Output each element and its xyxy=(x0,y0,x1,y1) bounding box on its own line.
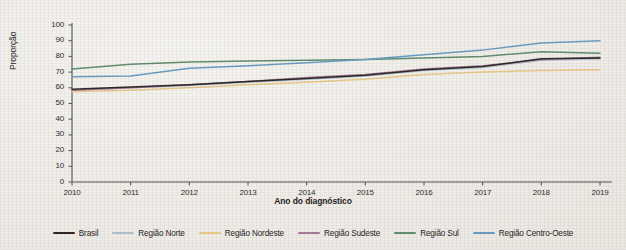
legend-label: Região Nordeste xyxy=(225,229,284,238)
legend-item[interactable]: Região Norte xyxy=(112,229,184,238)
legend-item[interactable]: Região Sul xyxy=(394,229,459,238)
legend-color-swatch xyxy=(298,232,320,234)
legend-item[interactable]: Brasil xyxy=(53,229,99,238)
legend-label: Brasil xyxy=(79,229,99,238)
legend-label: Região Sudeste xyxy=(324,229,380,238)
chart-legend: BrasilRegião NorteRegião NordesteRegião … xyxy=(0,222,626,244)
legend-label: Região Centro-Oeste xyxy=(499,229,574,238)
legend-color-swatch xyxy=(53,232,75,234)
legend-item[interactable]: Região Centro-Oeste xyxy=(473,229,574,238)
legend-color-swatch xyxy=(394,232,416,234)
legend-item[interactable]: Região Nordeste xyxy=(199,229,284,238)
legend-label: Região Norte xyxy=(138,229,184,238)
line-chart xyxy=(0,0,626,216)
legend-label: Região Sul xyxy=(420,229,459,238)
legend-color-swatch xyxy=(199,232,221,234)
legend-color-swatch xyxy=(473,232,495,234)
plot-area: Proporção Ano do diagnóstico 01020304050… xyxy=(0,0,626,216)
figure-canvas: Proporção Ano do diagnóstico 01020304050… xyxy=(0,0,626,250)
legend-color-swatch xyxy=(112,232,134,234)
legend-item[interactable]: Região Sudeste xyxy=(298,229,380,238)
